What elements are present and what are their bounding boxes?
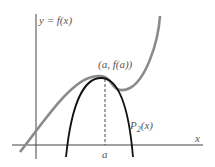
x-axis-label: x bbox=[195, 132, 200, 144]
point-label: (a, f(a)) bbox=[98, 58, 132, 70]
taylor-argument: (x) bbox=[141, 119, 153, 131]
a-tick-label: a bbox=[102, 148, 108, 160]
diagram bbox=[0, 0, 215, 167]
taylor-letter: P bbox=[130, 119, 137, 131]
function-label: y = f(x) bbox=[39, 14, 72, 26]
taylor-label: P2(x) bbox=[130, 119, 153, 134]
